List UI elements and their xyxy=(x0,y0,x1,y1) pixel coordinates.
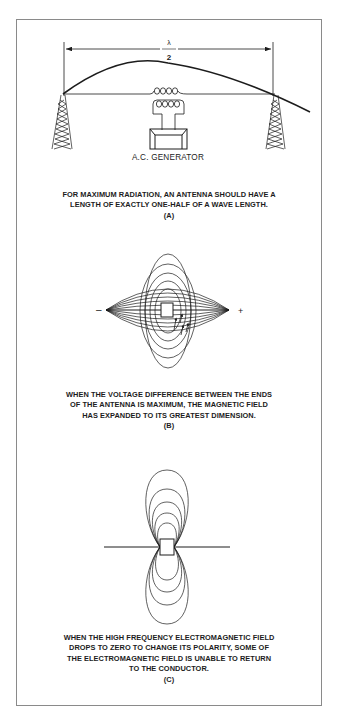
caption-line: LENGTH OF EXACTLY ONE-HALF OF A WAVE LEN… xyxy=(20,200,318,210)
ac-generator-icon xyxy=(150,129,187,149)
panel-c-id: (C) xyxy=(20,675,318,685)
caption-line: TO THE CONDUCTOR. xyxy=(20,664,318,674)
panel-b-id: (B) xyxy=(20,421,318,431)
caption-line: FOR MAXIMUM RADIATION, AN ANTENNA SHOULD… xyxy=(20,190,318,200)
right-tower-icon xyxy=(266,95,285,149)
panel-a-diagram: λ 2 xyxy=(52,39,310,149)
left-tower-icon xyxy=(52,95,72,149)
negative-polarity-label: – xyxy=(96,304,102,315)
lambda-label: λ xyxy=(167,39,171,46)
upper-field-loops xyxy=(146,470,188,547)
panel-c-caption: WHEN THE HIGH FREQUENCY ELECTROMAGNETIC … xyxy=(20,633,318,685)
caption-line: DROPS TO ZERO TO CHANGE ITS POLARITY, SO… xyxy=(20,643,318,653)
denominator-label: 2 xyxy=(167,53,172,62)
panel-a-id: (A) xyxy=(20,211,318,221)
primary-coil-icon xyxy=(150,88,187,94)
caption-line: HAS EXPANDED TO ITS GREATEST DIMENSION. xyxy=(20,411,318,421)
diagram-artwork: λ 2 xyxy=(0,0,337,715)
ac-generator-label: A.C. GENERATOR xyxy=(110,153,226,162)
panel-a-caption: FOR MAXIMUM RADIATION, AN ANTENNA SHOULD… xyxy=(20,190,318,221)
secondary-coil-icon xyxy=(153,100,184,130)
panel-b-caption: WHEN THE VOLTAGE DIFFERENCE BETWEEN THE … xyxy=(20,390,318,432)
source-box-icon xyxy=(160,539,174,555)
panel-c-diagram xyxy=(104,470,230,624)
caption-line: THE ELECTROMAGNETIC FIELD IS UNABLE TO R… xyxy=(20,654,318,664)
panel-b-diagram xyxy=(106,254,229,368)
caption-line: WHEN THE HIGH FREQUENCY ELECTROMAGNETIC … xyxy=(20,633,318,643)
positive-polarity-label: + xyxy=(238,306,243,316)
lower-field-loops xyxy=(146,547,188,624)
caption-line: OF THE ANTENNA IS MAXIMUM, THE MAGNETIC … xyxy=(20,400,318,410)
source-box-icon xyxy=(161,303,173,317)
caption-line: WHEN THE VOLTAGE DIFFERENCE BETWEEN THE … xyxy=(20,390,318,400)
